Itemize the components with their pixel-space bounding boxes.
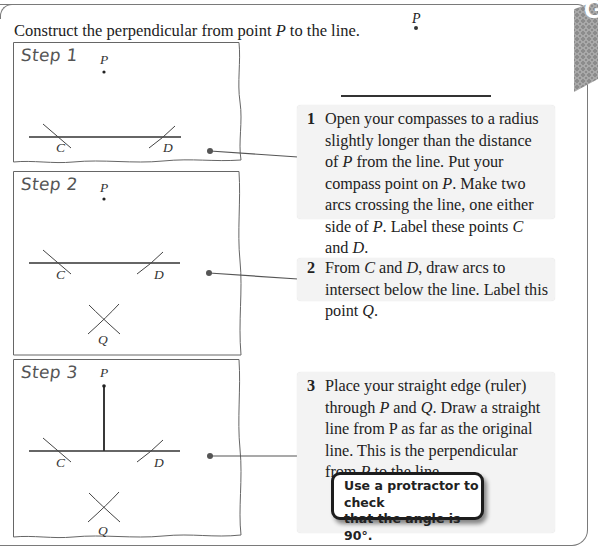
step1-number: 1 (307, 109, 315, 131)
callout-line2: that the angle is 90°. (344, 511, 481, 544)
step3-text: Place your straight edge (ruler) through… (325, 376, 549, 484)
step2-number: 2 (307, 258, 315, 280)
protractor-tip-callout: Use a protractor to check that the angle… (331, 472, 484, 520)
step3-number: 3 (307, 376, 315, 398)
callout-line1: Use a protractor to check (344, 478, 481, 511)
step2-text: From C and D, draw arcs to intersect bel… (325, 258, 549, 323)
step2-instruction-box: 2 From C and D, draw arcs to intersect b… (297, 258, 555, 301)
step1-text: Open your compasses to a radius slightly… (325, 109, 549, 260)
step1-instruction-box: 1 Open your compasses to a radius slight… (297, 105, 555, 219)
